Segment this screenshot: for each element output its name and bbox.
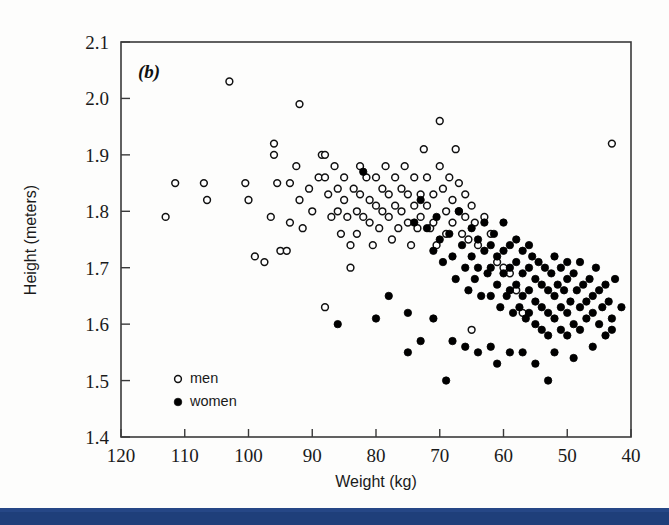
data-point-women: [474, 349, 481, 356]
data-point-men: [398, 185, 405, 192]
data-point-women: [442, 377, 449, 384]
data-point-women: [519, 349, 526, 356]
data-point-men: [299, 225, 306, 232]
data-point-men: [357, 191, 364, 198]
data-point-men: [420, 146, 427, 153]
data-point-men: [341, 197, 348, 204]
data-point-women: [506, 287, 513, 294]
data-point-women: [506, 264, 513, 271]
data-point-women: [372, 315, 379, 322]
data-point-women: [500, 247, 507, 254]
legend-label-women: women: [189, 393, 237, 409]
data-point-women: [538, 304, 545, 311]
data-point-women: [423, 225, 430, 232]
data-point-women: [532, 275, 539, 282]
data-point-men: [283, 247, 290, 254]
bottom-bar-sheen: [0, 508, 669, 512]
data-point-men: [353, 230, 360, 237]
data-point-women: [519, 292, 526, 299]
data-point-women: [541, 264, 548, 271]
data-point-women: [570, 354, 577, 361]
data-point-women: [576, 304, 583, 311]
data-point-women: [544, 309, 551, 316]
data-point-men: [449, 219, 456, 226]
data-point-men: [382, 163, 389, 170]
data-point-women: [564, 275, 571, 282]
data-point-women: [506, 241, 513, 248]
y-tick-label: 1.4: [85, 427, 109, 448]
data-point-women: [579, 281, 586, 288]
data-point-men: [353, 208, 360, 215]
y-axis-title: Height (meters): [22, 185, 39, 295]
data-point-women: [564, 258, 571, 265]
data-point-men: [436, 118, 443, 125]
data-point-women: [557, 326, 564, 333]
data-point-women: [605, 298, 612, 305]
data-point-men: [350, 185, 357, 192]
data-point-women: [567, 298, 574, 305]
data-point-women: [535, 258, 542, 265]
data-point-men: [344, 214, 351, 221]
data-point-men: [392, 202, 399, 209]
data-point-men: [309, 208, 316, 215]
data-point-women: [513, 236, 520, 243]
data-point-men: [242, 180, 249, 187]
data-point-women: [544, 377, 551, 384]
data-point-women: [433, 213, 440, 220]
data-point-women: [516, 304, 523, 311]
data-point-men: [271, 151, 278, 158]
data-point-women: [385, 292, 392, 299]
data-point-men: [373, 202, 380, 209]
data-point-women: [557, 264, 564, 271]
data-point-women: [468, 253, 475, 260]
data-point-women: [411, 219, 418, 226]
data-point-men: [274, 180, 281, 187]
data-point-women: [532, 360, 539, 367]
data-point-men: [261, 259, 268, 266]
data-point-women: [490, 230, 497, 237]
data-point-women: [417, 196, 424, 203]
data-point-women: [554, 281, 561, 288]
data-point-women: [551, 349, 558, 356]
data-point-men: [293, 163, 300, 170]
data-point-women: [500, 270, 507, 277]
data-point-men: [328, 214, 335, 221]
legend-label-men: men: [190, 370, 218, 386]
axis-tick-labels: 1201101009080706050402.12.01.91.81.71.61…: [85, 32, 640, 466]
data-point-men: [325, 191, 332, 198]
data-point-men: [373, 174, 380, 181]
data-point-men: [376, 225, 383, 232]
data-point-women: [564, 309, 571, 316]
data-point-men: [398, 208, 405, 215]
legend-marker-women: [174, 398, 182, 406]
data-point-women: [548, 270, 555, 277]
data-point-men: [360, 214, 367, 221]
data-point-men: [455, 180, 462, 187]
data-point-women: [608, 326, 615, 333]
data-point-women: [487, 264, 494, 271]
x-tick-label: 60: [494, 445, 513, 466]
x-tick-label: 110: [171, 445, 199, 466]
data-point-men: [392, 174, 399, 181]
data-point-men: [341, 174, 348, 181]
data-point-men: [322, 151, 329, 158]
data-point-women: [602, 281, 609, 288]
data-point-men: [468, 202, 475, 209]
data-point-women: [589, 309, 596, 316]
data-point-men: [251, 253, 258, 260]
data-point-men: [401, 163, 408, 170]
x-tick-label: 100: [234, 445, 263, 466]
data-point-men: [462, 191, 469, 198]
data-point-women: [455, 208, 462, 215]
data-point-women: [462, 264, 469, 271]
data-point-men: [347, 264, 354, 271]
figure-panel: 1201101009080706050402.12.01.91.81.71.61…: [0, 0, 669, 525]
data-point-men: [322, 304, 329, 311]
data-point-women: [532, 320, 539, 327]
data-point-men: [334, 208, 341, 215]
data-point-women: [481, 247, 488, 254]
data-point-men: [385, 191, 392, 198]
data-point-women: [586, 275, 593, 282]
data-point-women: [474, 264, 481, 271]
data-point-women: [509, 309, 516, 316]
